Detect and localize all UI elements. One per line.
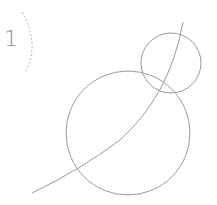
sketch-drawing — [0, 0, 217, 205]
guide-curve — [32, 22, 183, 193]
dashed-arc — [22, 12, 32, 72]
small-circle — [141, 33, 201, 93]
